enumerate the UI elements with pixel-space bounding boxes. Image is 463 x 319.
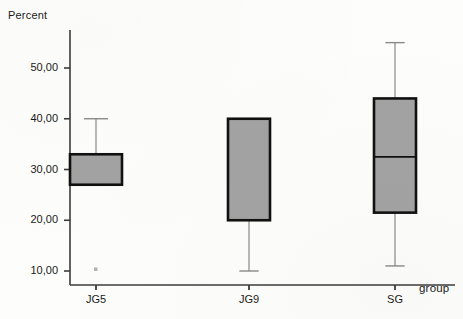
y-tick-label: 50,00: [2, 61, 58, 73]
outlier-marker: [94, 267, 98, 271]
y-tick-label: 10,00: [2, 264, 58, 276]
x-tick-label: JG9: [214, 293, 284, 305]
y-axis-title: Percent: [8, 9, 47, 21]
box-rect: [228, 119, 270, 221]
box-jg9: [228, 119, 270, 271]
box-series: [70, 43, 416, 271]
x-tick-label: JG5: [61, 293, 131, 305]
y-tick-label: 40,00: [2, 112, 58, 124]
box-rect: [374, 98, 416, 212]
box-jg5: [70, 119, 122, 271]
y-tick-label: 30,00: [2, 163, 58, 175]
x-tick-label: SG: [360, 293, 430, 305]
box-rect: [70, 154, 122, 184]
box-sg: [374, 43, 416, 266]
y-tick-label: 20,00: [2, 213, 58, 225]
box-plot-chart: [0, 0, 463, 319]
